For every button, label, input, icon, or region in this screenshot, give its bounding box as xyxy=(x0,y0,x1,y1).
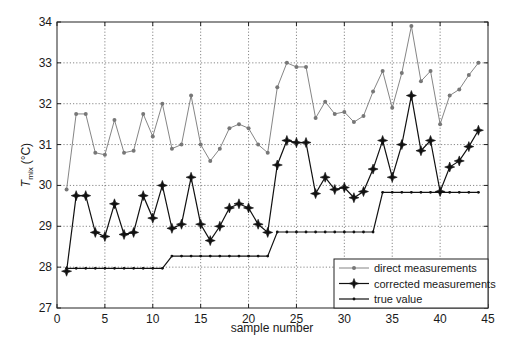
y-tick-label: 31 xyxy=(39,138,53,152)
dot-marker xyxy=(343,231,346,234)
x-tick-label: 0 xyxy=(54,312,61,326)
dot-marker xyxy=(294,65,298,69)
dot-marker xyxy=(209,255,212,258)
y-tick-label: 30 xyxy=(39,178,53,192)
line-chart: 0510152025303540452728293031323334 sampl… xyxy=(0,0,513,354)
dot-marker xyxy=(477,191,480,194)
legend-label: corrected measurements xyxy=(374,278,496,290)
dot-marker xyxy=(151,267,154,270)
dot-marker xyxy=(84,267,87,270)
dot-marker xyxy=(419,79,423,83)
dot-marker xyxy=(276,231,279,234)
dot-marker xyxy=(400,191,403,194)
dot-marker xyxy=(218,147,222,151)
dot-marker xyxy=(457,87,461,91)
x-tick-label: 5 xyxy=(102,312,109,326)
dot-marker xyxy=(438,122,442,126)
dot-marker xyxy=(171,255,174,258)
dot-marker xyxy=(391,191,394,194)
legend: direct measurementscorrected measurement… xyxy=(334,259,496,308)
dot-marker xyxy=(448,94,452,98)
dot-marker xyxy=(429,69,433,73)
y-tick-label: 34 xyxy=(39,15,53,29)
dot-marker xyxy=(324,231,327,234)
dot-marker xyxy=(285,231,288,234)
dot-marker xyxy=(353,231,356,234)
y-tick-label: 29 xyxy=(39,219,53,233)
dot-marker xyxy=(353,298,356,301)
dot-marker xyxy=(94,267,97,270)
dot-marker xyxy=(361,114,365,118)
dot-marker xyxy=(123,267,126,270)
dot-marker xyxy=(161,267,164,270)
dot-marker xyxy=(390,106,394,110)
dot-marker xyxy=(103,267,106,270)
dot-marker xyxy=(429,191,432,194)
y-axis-label-subscript: mix xyxy=(26,167,35,179)
dot-marker xyxy=(381,69,385,73)
dot-marker xyxy=(112,118,116,122)
dot-marker xyxy=(237,122,241,126)
x-tick-label: 45 xyxy=(481,312,495,326)
dot-marker xyxy=(142,267,145,270)
x-tick-label: 10 xyxy=(146,312,160,326)
dot-marker xyxy=(247,126,251,130)
dot-marker xyxy=(75,267,78,270)
dot-marker xyxy=(208,159,212,163)
dot-marker xyxy=(352,266,356,270)
dot-marker xyxy=(333,231,336,234)
dot-marker xyxy=(65,267,68,270)
dot-marker xyxy=(257,255,260,258)
x-tick-label: 15 xyxy=(194,312,208,326)
dot-marker xyxy=(275,85,279,89)
dot-marker xyxy=(93,151,97,155)
dot-marker xyxy=(448,191,451,194)
dot-marker xyxy=(180,143,184,147)
dot-marker xyxy=(190,255,193,258)
dot-marker xyxy=(151,134,155,138)
dot-marker xyxy=(189,94,193,98)
dot-marker xyxy=(227,126,231,130)
x-tick-label: 40 xyxy=(433,312,447,326)
dot-marker xyxy=(381,191,384,194)
dot-marker xyxy=(439,191,442,194)
dot-marker xyxy=(199,255,202,258)
dot-marker xyxy=(122,151,126,155)
dot-marker xyxy=(333,112,337,116)
dot-marker xyxy=(372,231,375,234)
dot-marker xyxy=(285,61,289,65)
dot-marker xyxy=(458,191,461,194)
dot-marker xyxy=(342,110,346,114)
dot-marker xyxy=(256,143,260,147)
dot-marker xyxy=(84,112,88,116)
dot-marker xyxy=(74,112,78,116)
dot-marker xyxy=(467,191,470,194)
dot-marker xyxy=(409,24,413,28)
dot-marker xyxy=(141,112,145,116)
y-axis-label-unit: (°C) xyxy=(19,143,33,164)
dot-marker xyxy=(65,188,69,192)
dot-marker xyxy=(400,71,404,75)
chart: 0510152025303540452728293031323334 sampl… xyxy=(0,0,513,354)
dot-marker xyxy=(304,65,308,69)
dot-marker xyxy=(132,149,136,153)
dot-marker xyxy=(238,255,241,258)
dot-marker xyxy=(218,255,221,258)
dot-marker xyxy=(314,231,317,234)
dot-marker xyxy=(295,231,298,234)
dot-marker xyxy=(247,255,250,258)
dot-marker xyxy=(199,143,203,147)
dot-marker xyxy=(103,153,107,157)
dot-marker xyxy=(314,116,318,120)
legend-label: direct measurements xyxy=(374,262,477,274)
dot-marker xyxy=(410,191,413,194)
dot-marker xyxy=(266,151,270,155)
dot-marker xyxy=(362,231,365,234)
dot-marker xyxy=(113,267,116,270)
legend-label: true value xyxy=(374,293,422,305)
y-tick-label: 28 xyxy=(39,260,53,274)
dot-marker xyxy=(305,231,308,234)
dot-marker xyxy=(352,120,356,124)
dot-marker xyxy=(180,255,183,258)
y-tick-label: 33 xyxy=(39,56,53,70)
